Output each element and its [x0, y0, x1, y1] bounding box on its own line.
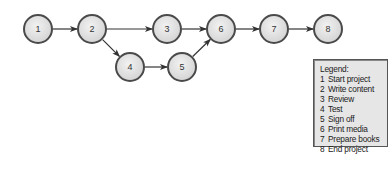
legend-item-number: 7 [320, 134, 328, 144]
edge-arrow-5-6 [193, 39, 211, 56]
node-label: 4 [127, 62, 132, 72]
legend-item-number: 2 [320, 84, 328, 94]
legend-item: 6Print media [320, 124, 387, 134]
node-5: 5 [168, 53, 196, 81]
node-label: 8 [325, 24, 330, 34]
legend-item: 5Sign off [320, 114, 387, 124]
node-3: 3 [153, 15, 181, 43]
legend-item: 1Start project [320, 74, 387, 84]
legend-item-number: 6 [320, 124, 328, 134]
node-label: 3 [164, 24, 169, 34]
node-4: 4 [116, 53, 144, 81]
legend-list: 1Start project2Write content3Review4Test… [320, 74, 387, 154]
legend-item-number: 4 [320, 104, 328, 114]
node-label: 2 [89, 24, 94, 34]
legend-item-label: Test [328, 104, 342, 114]
legend-item-label: Start project [328, 74, 370, 84]
legend-item-label: Write content [328, 84, 374, 94]
legend-item-label: End project [328, 144, 368, 154]
legend-item-label: Sign off [328, 114, 354, 124]
legend-item-number: 3 [320, 94, 328, 104]
node-label: 6 [218, 24, 223, 34]
legend-item-number: 5 [320, 114, 328, 124]
edge-arrow-2-4 [103, 40, 120, 57]
node-7: 7 [260, 15, 288, 43]
legend-item-number: 1 [320, 74, 328, 84]
legend-item-number: 8 [320, 144, 328, 154]
legend-item-label: Print media [328, 124, 368, 134]
legend-item: 7Prepare books [320, 134, 387, 144]
node-8: 8 [314, 15, 342, 43]
node-label: 1 [35, 24, 40, 34]
legend-item: 3Review [320, 94, 387, 104]
nodes-group: 12345678 [24, 15, 342, 81]
legend-item: 4Test [320, 104, 387, 114]
node-6: 6 [207, 15, 235, 43]
legend-item: 2Write content [320, 84, 387, 94]
legend-item-label: Review [328, 94, 354, 104]
legend-item: 8End project [320, 144, 387, 154]
legend-title: Legend: [320, 64, 387, 74]
legend-item-label: Prepare books [328, 134, 379, 144]
legend-box: Legend: 1Start project2Write content3Rev… [313, 59, 388, 147]
node-label: 7 [271, 24, 276, 34]
node-1: 1 [24, 15, 52, 43]
node-2: 2 [78, 15, 106, 43]
node-label: 5 [179, 62, 184, 72]
